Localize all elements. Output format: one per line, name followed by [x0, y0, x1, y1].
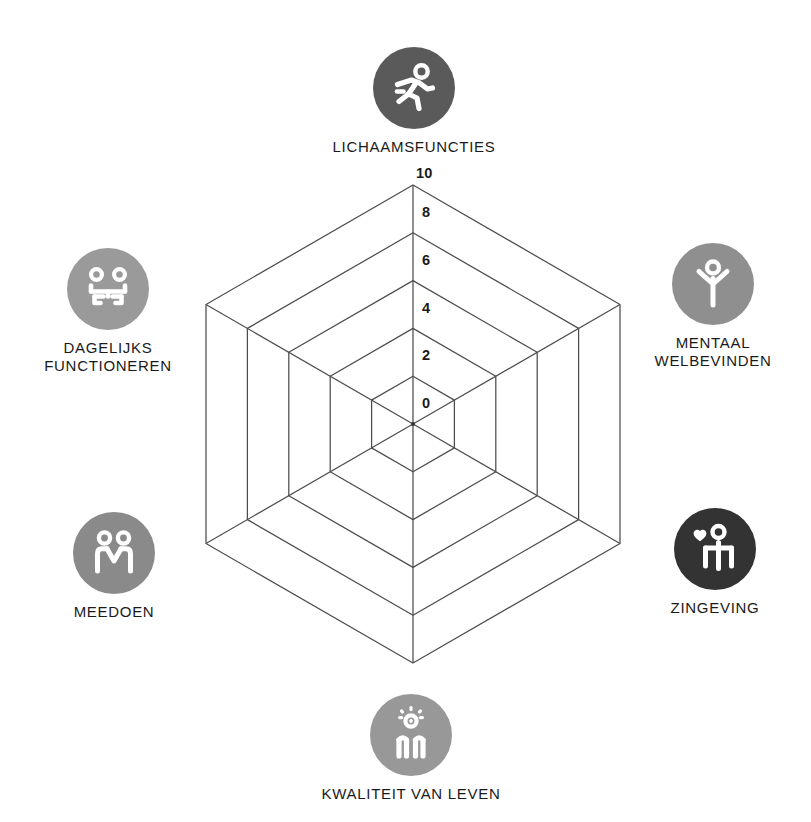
dimension-zingeving[interactable]: ZINGEVING: [615, 508, 811, 617]
dagelijks-functioneren-label: DAGELIJKS FUNCTIONEREN: [8, 339, 208, 374]
zingeving-badge: [674, 508, 756, 590]
lichaamsfuncties-badge: [373, 47, 455, 129]
tick-label-6: 6: [422, 253, 430, 268]
meedoen-label: MEEDOEN: [14, 603, 214, 621]
radar-center-point: [411, 422, 415, 426]
two-people-at-table-icon: [67, 248, 149, 330]
dagelijks-functioneren-badge: [67, 248, 149, 330]
two-people-sun-icon: [370, 694, 452, 776]
tick-label-0: 0: [422, 396, 430, 411]
tick-label-4: 4: [422, 301, 430, 316]
meedoen-badge: [73, 512, 155, 594]
two-people-holding-hands-icon: [73, 512, 155, 594]
person-with-heart-icon: [674, 508, 756, 590]
kwaliteit-van-leven-label: KWALITEIT VAN LEVEN: [311, 785, 511, 803]
radar-spoke-meedoen: [206, 424, 413, 544]
tick-label-2: 2: [422, 348, 430, 363]
radar-chart-canvas: 10 8 6 4 2 0 LICHAAMSFUNCTIES: [0, 0, 811, 822]
radar-spoke-mentaal-welbevinden: [413, 305, 620, 425]
kwaliteit-van-leven-badge: [370, 694, 452, 776]
dimension-dagelijks-functioneren[interactable]: DAGELIJKS FUNCTIONEREN: [8, 248, 208, 374]
dimension-kwaliteit-van-leven[interactable]: KWALITEIT VAN LEVEN: [311, 694, 511, 803]
tick-label-8: 8: [422, 205, 430, 220]
person-arms-raised-icon: [672, 243, 754, 325]
lichaamsfuncties-label: LICHAAMSFUNCTIES: [314, 138, 514, 156]
radar-spoke-zingeving: [413, 424, 620, 544]
running-person-icon: [373, 47, 455, 129]
zingeving-label: ZINGEVING: [615, 599, 811, 617]
mentaal-welbevinden-badge: [672, 243, 754, 325]
dimension-mentaal-welbevinden[interactable]: MENTAAL WELBEVINDEN: [613, 243, 811, 369]
radar-spoke-dagelijks-functioneren: [206, 305, 413, 425]
dimension-meedoen[interactable]: MEEDOEN: [14, 512, 214, 621]
tick-label-10: 10: [416, 166, 433, 181]
mentaal-welbevinden-label: MENTAAL WELBEVINDEN: [613, 334, 811, 369]
dimension-lichaamsfuncties[interactable]: LICHAAMSFUNCTIES: [314, 47, 514, 156]
